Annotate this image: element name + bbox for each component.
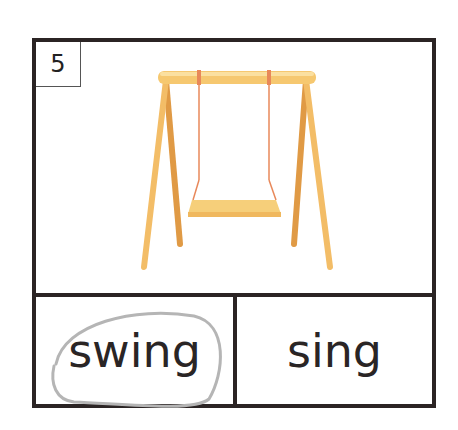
- picture-area: 5: [36, 42, 432, 293]
- worksheet-card: 5 swing sing: [32, 38, 436, 408]
- swing-icon: [136, 62, 336, 274]
- pencil-circle-mark: [44, 304, 234, 414]
- item-number: 5: [36, 42, 81, 87]
- word-label: sing: [287, 324, 382, 378]
- word-option-sing[interactable]: sing: [237, 297, 432, 404]
